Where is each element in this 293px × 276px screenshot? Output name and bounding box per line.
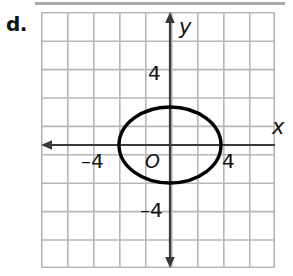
coordinate-graph: y x –4 4 4 –4 O — [41, 12, 275, 268]
grid-lines — [41, 12, 275, 268]
origin-label: O — [145, 150, 160, 172]
x-tick-label-positive-four: 4 — [222, 149, 235, 173]
x-tick-label-negative-four: –4 — [81, 149, 104, 173]
x-axis-label: x — [272, 115, 284, 139]
figure-panel: d. — [0, 0, 293, 276]
graph-canvas — [41, 12, 275, 268]
y-tick-label-negative-four: –4 — [140, 198, 163, 222]
y-axis-label: y — [179, 15, 191, 39]
item-letter-label: d. — [6, 12, 27, 36]
x-axis — [41, 140, 275, 150]
y-axis — [165, 12, 175, 268]
y-tick-label-positive-four: 4 — [148, 61, 161, 85]
top-divider-rule — [35, 2, 285, 5]
